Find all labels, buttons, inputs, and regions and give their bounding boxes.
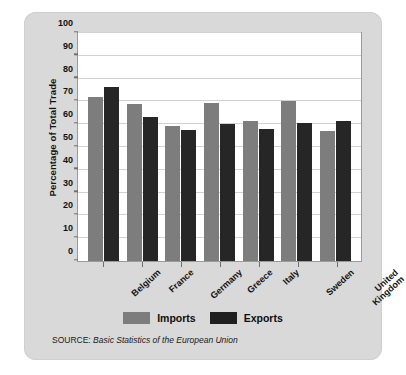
x-tick-label: France — [167, 268, 195, 295]
y-tick-label: 90 — [39, 41, 73, 51]
bar-group — [278, 33, 317, 261]
bar-exports — [220, 124, 235, 261]
chart-legend: ImportsExports — [24, 312, 382, 324]
legend-swatch-imports — [123, 312, 150, 324]
y-tick-label: 0 — [39, 246, 73, 256]
legend-label: Exports — [244, 312, 283, 324]
bar-imports — [165, 126, 180, 261]
bar-imports — [88, 97, 103, 261]
source-note: SOURCE: Basic Statistics of the European… — [52, 335, 238, 345]
source-title: Basic Statistics of the European Union — [93, 335, 238, 345]
legend-swatch-exports — [210, 312, 237, 324]
y-tick-label: 30 — [39, 178, 73, 188]
bar-exports — [104, 87, 119, 261]
y-tick-label: 10 — [39, 223, 73, 233]
bar-exports — [297, 123, 312, 261]
source-prefix: SOURCE: — [52, 335, 93, 345]
bar-group — [239, 33, 278, 261]
y-tick-label: 50 — [39, 132, 73, 142]
x-tick-label: Italy — [281, 268, 301, 287]
y-tick-label: 80 — [39, 64, 73, 74]
legend-item: Imports — [123, 312, 196, 324]
y-tick-label: 100 — [39, 18, 73, 28]
bar-imports — [243, 121, 258, 261]
bar-imports — [320, 131, 335, 261]
x-tick-label: Belgium — [130, 268, 163, 299]
bar-imports — [281, 101, 296, 261]
bar-group — [84, 33, 123, 261]
bar-imports — [204, 103, 219, 261]
bar-exports — [259, 129, 274, 261]
x-tick-label: UnitedKingdom — [365, 268, 406, 308]
bar-exports — [336, 121, 351, 261]
plot-area: 0102030405060708090100 — [77, 32, 362, 262]
x-tick-label: Sweden — [324, 268, 356, 298]
bar-group — [161, 33, 200, 261]
bar-group — [123, 33, 162, 261]
x-tick-label: Greece — [245, 268, 274, 295]
legend-item: Exports — [210, 312, 283, 324]
x-tick-label: Germany — [209, 268, 244, 301]
y-tick-label: 40 — [39, 155, 73, 165]
bar-groups — [78, 33, 361, 261]
bar-imports — [127, 104, 142, 261]
chart-figure: Percentage of Total Trade 01020304050607… — [24, 12, 382, 360]
bar-exports — [181, 130, 196, 261]
bar-group — [316, 33, 355, 261]
y-tick-label: 70 — [39, 86, 73, 96]
bar-group — [200, 33, 239, 261]
x-axis-labels: BelgiumFranceGermanyGreeceItalySwedenUni… — [77, 264, 362, 312]
y-tick-label: 60 — [39, 109, 73, 119]
y-tick-label: 20 — [39, 200, 73, 210]
bar-exports — [143, 117, 158, 261]
legend-label: Imports — [157, 312, 196, 324]
